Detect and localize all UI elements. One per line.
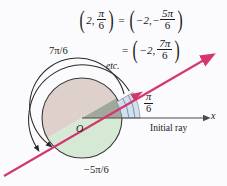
pair-right-1-theta-sign: − [153, 14, 159, 26]
initial-ray-label: Initial ray [150, 124, 187, 134]
pair-right-1-theta-den: 6 [160, 20, 175, 31]
wedge-angle-num: π [144, 92, 153, 104]
pair-left-theta: π 6 [97, 8, 107, 31]
equals-sign-2: = [122, 44, 128, 56]
equation-line-2: = ( −2 , 7π 6 ) [119, 38, 182, 61]
paren-close-icon: ) [177, 10, 182, 30]
wedge-angle-label: π 6 [143, 92, 154, 114]
paren-close-icon: ) [109, 10, 114, 30]
x-axis-label: x [211, 111, 215, 121]
pair-right-1-theta: 5π 6 [160, 8, 175, 31]
pair-right-2-r: −2 [140, 44, 153, 56]
pair-right-2-theta-den: 6 [157, 50, 172, 61]
paren-open-icon: ( [133, 40, 138, 60]
pair-right-2-theta: 7π 6 [157, 38, 172, 61]
upper-angle-label: 7π/6 [49, 46, 68, 57]
wedge-angle-den: 6 [144, 104, 153, 115]
paren-open-icon: ( [80, 10, 85, 30]
pair-left-comma: , [92, 14, 95, 26]
paren-close-icon: ) [175, 40, 180, 60]
equals-sign-1: = [118, 14, 124, 26]
origin-label: O [76, 124, 83, 134]
etc-label: etc. [106, 62, 119, 72]
pair-right-1-comma: , [149, 14, 152, 26]
paren-open-icon: ( [129, 10, 134, 30]
equation-line-1: ( 2 , π 6 ) = ( −2 , − 5π 6 ) [78, 8, 184, 31]
pair-right-2-comma: , [152, 44, 155, 56]
pair-right-1: ( −2 , − 5π 6 ) [128, 8, 185, 31]
lower-angle-label: −5π/6 [84, 165, 109, 176]
pair-left-theta-den: 6 [97, 20, 107, 31]
pair-right-2: ( −2 , 7π 6 ) [131, 38, 181, 61]
polar-coordinates-figure: ( 2 , π 6 ) = ( −2 , − 5π 6 ) = ( −2 [0, 0, 227, 186]
pair-left: ( 2 , π 6 ) [78, 8, 115, 31]
wedge-angle-fraction: π 6 [144, 92, 153, 114]
pair-right-1-r: −2 [136, 14, 149, 26]
